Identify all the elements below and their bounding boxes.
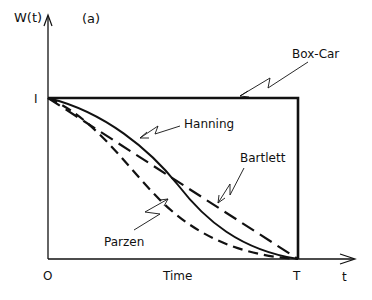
x-tick-zero: O [43, 269, 52, 283]
y-tick-one: I [34, 92, 38, 106]
boxcar-pointer-icon [240, 62, 308, 96]
hanning-pointer-icon [140, 126, 180, 138]
y-axis-label: W(t) [14, 10, 42, 25]
annotation-pointers [134, 62, 308, 230]
x-tick-T: T [292, 269, 301, 283]
label-boxcar: Box-Car [292, 47, 339, 61]
label-hanning: Hanning [184, 117, 234, 131]
parzen-pointer-icon [134, 199, 168, 230]
bartlett-pointer-icon [218, 168, 244, 203]
label-bartlett: Bartlett [240, 151, 286, 165]
x-axis-label: Time [162, 269, 192, 283]
window-functions-chart: W(t) (a) I Box-Car Hanning Bartlett Parz… [0, 0, 372, 300]
label-parzen: Parzen [104, 235, 144, 249]
series-bartlett [48, 98, 298, 259]
panel-label: (a) [82, 11, 100, 26]
bartlett-arrowhead-icon [218, 195, 225, 203]
x-axis-end-label: t [342, 270, 347, 284]
